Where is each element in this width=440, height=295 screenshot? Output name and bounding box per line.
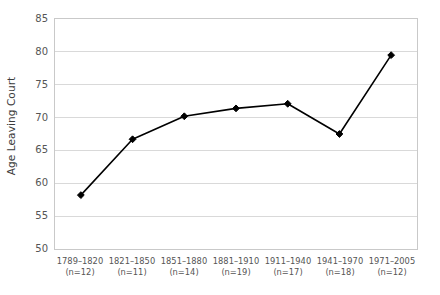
y-axis-tick-label: 50 <box>22 244 48 254</box>
x-axis-tick-label: 1851–1880(n=14) <box>158 256 210 294</box>
x-axis-tick-range: 1881–1910 <box>213 256 259 266</box>
y-axis-tick-label: 70 <box>22 113 48 123</box>
x-axis-tick-labels: 1789–1820(n=12)1821–1850(n=11)1851–1880(… <box>54 256 418 294</box>
x-axis-tick-label: 1911–1940(n=17) <box>262 256 314 294</box>
y-axis-tick-labels: 5055606570758085 <box>18 0 48 295</box>
y-axis-tick-label: 75 <box>22 80 48 90</box>
x-axis-tick-count: (n=14) <box>158 267 210 278</box>
y-axis-tick-label: 65 <box>22 145 48 155</box>
x-axis-tick-label: 1941–1970(n=18) <box>314 256 366 294</box>
data-point-marker <box>233 105 240 112</box>
x-axis-tick-range: 1941–1970 <box>317 256 363 266</box>
x-axis-tick-range: 1789–1820 <box>57 256 103 266</box>
x-axis-tick-count: (n=11) <box>106 267 158 278</box>
x-axis-tick-count: (n=17) <box>262 267 314 278</box>
y-axis-tick-label: 60 <box>22 178 48 188</box>
y-axis-tick-label: 55 <box>22 211 48 221</box>
x-axis-tick-count: (n=12) <box>366 267 418 278</box>
x-axis-tick-range: 1911–1940 <box>265 256 311 266</box>
data-point-marker <box>284 100 291 107</box>
series-line <box>81 55 391 195</box>
series-plot <box>55 19 417 249</box>
x-axis-tick-count: (n=19) <box>210 267 262 278</box>
x-axis-tick-range: 1971–2005 <box>369 256 415 266</box>
x-axis-tick-count: (n=18) <box>314 267 366 278</box>
data-point-marker <box>181 113 188 120</box>
y-axis-tick-label: 85 <box>22 14 48 24</box>
plot-area <box>54 18 418 250</box>
x-axis-tick-label: 1821–1850(n=11) <box>106 256 158 294</box>
x-axis-tick-label: 1789–1820(n=12) <box>54 256 106 294</box>
x-axis-tick-count: (n=12) <box>54 267 106 278</box>
x-axis-tick-label: 1881–1910(n=19) <box>210 256 262 294</box>
x-axis-tick-label: 1971–2005(n=12) <box>366 256 418 294</box>
chart-container: Age Leaving Court 5055606570758085 1789–… <box>0 0 440 295</box>
y-axis-title-text: Age Leaving Court <box>5 77 17 176</box>
x-axis-tick-range: 1821–1850 <box>109 256 155 266</box>
y-axis-tick-label: 80 <box>22 47 48 57</box>
x-axis-tick-range: 1851–1880 <box>161 256 207 266</box>
